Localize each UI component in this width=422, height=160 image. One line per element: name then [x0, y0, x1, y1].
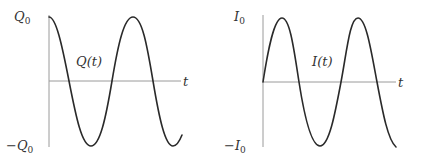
- figure-canvas: Q0 −Q0 Q(t) t I0 −I0 I(t) t: [0, 0, 422, 160]
- i0-label: I0: [233, 9, 245, 26]
- left-t-axis-label: t: [183, 74, 189, 89]
- q-of-t-label: Q(t): [76, 54, 102, 69]
- neg-i0-label: −I0: [224, 138, 246, 155]
- neg-q0-label: −Q0: [6, 138, 34, 155]
- q0-label: Q0: [14, 9, 31, 26]
- right-plot: I0 −I0 I(t) t: [224, 9, 404, 155]
- left-plot: Q0 −Q0 Q(t) t: [6, 9, 189, 155]
- right-t-axis-label: t: [398, 75, 404, 90]
- i-of-t-label: I(t): [311, 54, 333, 69]
